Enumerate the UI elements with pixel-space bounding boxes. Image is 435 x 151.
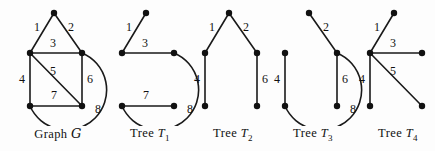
caption-prefix: Graph (34, 127, 71, 141)
vertex-e (79, 103, 85, 109)
diagram-graph-g: 12345678 (8, 0, 108, 126)
edge-label-3: 3 (142, 36, 148, 50)
edge-label-2: 2 (68, 20, 74, 34)
caption-graph-g: Graph G (8, 126, 108, 142)
vertex-e (334, 103, 340, 109)
caption-prefix: Tree (213, 126, 241, 140)
caption-subscript: 1 (165, 133, 170, 143)
edge-label-4: 4 (359, 72, 365, 86)
caption-prefix: Tree (378, 126, 406, 140)
graph-tree-figure: 12345678Graph G1378Tree T11246Tree T2246… (0, 0, 435, 151)
vertex-a (226, 10, 232, 16)
caption-symbol: T (406, 126, 413, 140)
edge-label-1: 1 (34, 20, 40, 34)
edge-label-5: 5 (50, 64, 56, 78)
edge-label-6: 6 (87, 72, 93, 86)
vertex-d (27, 103, 33, 109)
edge-label-4: 4 (274, 72, 280, 86)
vertex-d (202, 103, 208, 109)
vertex-b (282, 50, 288, 56)
vertex-d (367, 103, 373, 109)
panel-tree-t4: 1345Tree T4 (348, 0, 435, 151)
vertex-a (306, 10, 312, 16)
edge-label-2: 2 (323, 20, 329, 34)
vertex-c (419, 50, 425, 56)
edge-label-5: 5 (390, 64, 396, 78)
caption-symbol: T (321, 126, 328, 140)
edge-label-1: 1 (126, 20, 132, 34)
vertex-b (119, 50, 125, 56)
vertex-e (171, 103, 177, 109)
edge-label-7: 7 (51, 88, 57, 102)
caption-symbol: T (158, 126, 165, 140)
vertex-e (419, 103, 425, 109)
edge-label-1: 1 (374, 20, 380, 34)
vertex-c (171, 50, 177, 56)
vertex-b (202, 50, 208, 56)
caption-symbol: G (71, 126, 82, 141)
caption-prefix: Tree (293, 126, 321, 140)
caption-symbol: T (241, 126, 248, 140)
edge-label-2: 2 (243, 20, 249, 34)
caption-prefix: Tree (130, 126, 158, 140)
vertex-d (119, 103, 125, 109)
edge-label-1: 1 (209, 20, 215, 34)
vertex-b (367, 50, 373, 56)
vertex-b (27, 50, 33, 56)
vertex-a (143, 10, 149, 16)
vertex-e (254, 103, 260, 109)
edge-label-4: 4 (194, 72, 200, 86)
vertex-d (282, 103, 288, 109)
edge-label-7: 7 (143, 88, 149, 102)
vertex-c (79, 50, 85, 56)
edge-label-3: 3 (50, 36, 56, 50)
vertex-c (254, 50, 260, 56)
diagram-tree-t4: 1345 (348, 0, 435, 126)
vertex-c (334, 50, 340, 56)
caption-subscript: 4 (413, 133, 418, 143)
edge-label-3: 3 (390, 36, 396, 50)
panel-graph-g: 12345678Graph G (8, 0, 108, 151)
caption-subscript: 2 (248, 133, 253, 143)
caption-subscript: 3 (328, 133, 333, 143)
vertex-a (391, 10, 397, 16)
edge-label-4: 4 (19, 72, 25, 86)
vertex-a (51, 10, 57, 16)
edge-5 (370, 53, 422, 106)
caption-tree-t4: Tree T4 (348, 126, 435, 143)
